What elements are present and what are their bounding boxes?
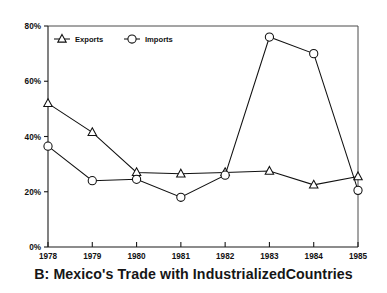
y-tick-label: 20% (25, 188, 42, 197)
data-point-imports-1978 (44, 142, 52, 150)
data-point-imports-1979 (88, 177, 96, 185)
data-point-exports-1981 (177, 169, 185, 177)
triangle-marker-icon (58, 34, 66, 42)
legend-label-imports: Imports (145, 35, 173, 44)
y-tick-label: 60% (25, 77, 42, 86)
x-tick-label: 1985 (349, 252, 368, 261)
data-point-imports-1985 (354, 186, 362, 194)
x-tick-label: 1984 (305, 252, 324, 261)
line-chart: 0%20%40%60%80% 1978197919801981198219831… (0, 0, 387, 270)
x-tick-label: 1980 (127, 252, 146, 261)
chart-caption: B: Mexico's Trade with IndustrializedCou… (0, 266, 387, 282)
y-axis-tick-labels: 0%20%40%60%80% (25, 22, 42, 252)
data-point-imports-1980 (132, 175, 140, 183)
y-tick-label: 40% (25, 133, 42, 142)
chart-legend: ExportsImports (54, 34, 173, 44)
data-point-exports-1985 (354, 172, 362, 180)
x-tick-label: 1981 (172, 252, 191, 261)
x-axis-ticks (48, 242, 358, 247)
data-point-exports-1983 (265, 166, 273, 174)
data-point-exports-1980 (132, 168, 140, 176)
y-tick-label: 80% (25, 22, 42, 31)
data-point-exports-1978 (44, 99, 52, 107)
data-point-imports-1981 (177, 193, 185, 201)
chart-series-group (44, 33, 362, 201)
x-tick-label: 1982 (216, 252, 235, 261)
x-tick-label: 1979 (83, 252, 102, 261)
data-point-exports-1979 (88, 128, 96, 136)
y-axis-ticks (44, 26, 48, 247)
legend-label-exports: Exports (75, 35, 103, 44)
circle-marker-icon (128, 35, 136, 43)
chart-figure: 0%20%40%60%80% 1978197919801981198219831… (0, 0, 387, 293)
x-axis-tick-labels: 19781979198019811982198319841985 (39, 252, 368, 261)
data-point-imports-1984 (310, 50, 318, 58)
series-line-exports (48, 103, 358, 184)
data-point-imports-1982 (221, 171, 229, 179)
x-tick-label: 1978 (39, 252, 58, 261)
data-point-imports-1983 (265, 33, 273, 41)
y-tick-label: 0% (29, 243, 42, 252)
x-tick-label: 1983 (260, 252, 279, 261)
